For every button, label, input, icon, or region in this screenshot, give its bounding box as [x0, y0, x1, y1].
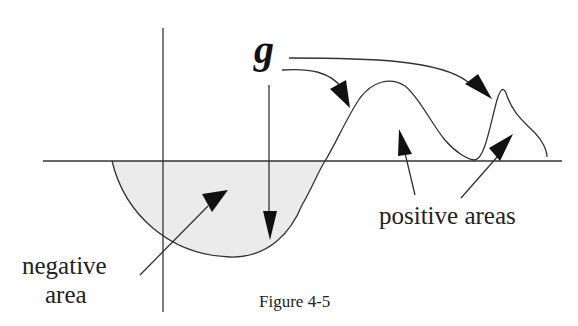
negative-area-label-line1: negative — [22, 253, 107, 278]
arrowhead-peak1 — [330, 80, 350, 108]
negative-area-fill — [112, 161, 325, 257]
function-label-g: g — [254, 30, 274, 70]
arrow-positive1-shaft — [405, 153, 415, 195]
figure-caption: Figure 4-5 — [259, 293, 330, 310]
positive-areas-label: positive areas — [379, 203, 516, 228]
negative-area-label-line2: area — [45, 282, 87, 307]
arrowhead-positive2 — [489, 134, 513, 161]
arrowhead-peak2 — [465, 74, 492, 99]
arrow-g-to-peak2 — [289, 58, 468, 82]
arrow-g-to-peak1 — [282, 70, 342, 88]
arrowhead-positive1 — [398, 129, 412, 156]
arrow-positive2-shaft — [461, 156, 498, 198]
